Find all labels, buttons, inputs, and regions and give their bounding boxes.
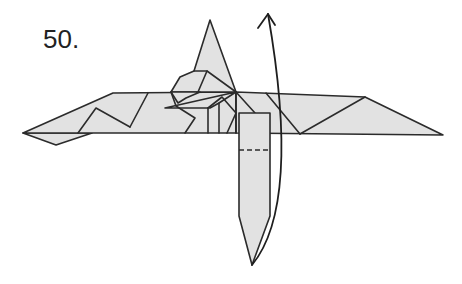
left-wing-lower-flap <box>23 133 92 145</box>
head-peak <box>171 20 236 92</box>
arrowhead-icon <box>258 14 275 28</box>
origami-diagram <box>0 0 462 284</box>
